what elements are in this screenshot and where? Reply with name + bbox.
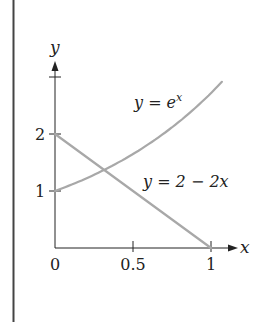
y-axis-arrow-icon (52, 61, 59, 71)
x-axis-arrow-icon (228, 245, 238, 252)
y-tick-label: 2 (35, 125, 45, 144)
labels-group: 00.5112 (35, 125, 216, 274)
x-tick-label: 0.5 (120, 255, 145, 274)
series-linear-line (55, 134, 211, 248)
series-label-exp: y = ex (133, 91, 183, 112)
x-axis-label: x (240, 237, 250, 257)
x-tick-label: 1 (206, 255, 216, 274)
y-axis-label: y (49, 37, 60, 57)
axes (49, 61, 238, 252)
y-tick-label: 1 (35, 182, 45, 201)
series-label-linear: y = 2 − 2x (142, 172, 229, 191)
chart: 00.5112 y x y = ex y = 2 − 2x (0, 0, 262, 322)
x-tick-label: 0 (50, 255, 60, 274)
series-label-exp-base: y = e (133, 93, 176, 112)
series-label-exp-sup: x (176, 91, 183, 104)
